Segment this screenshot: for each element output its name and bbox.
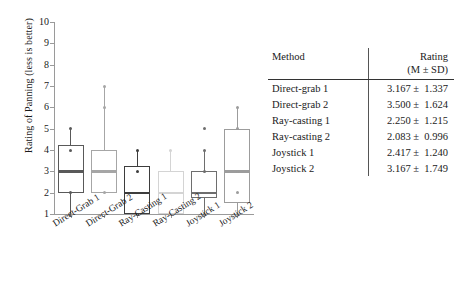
header-rating-sub: (M ± SD)	[369, 64, 455, 79]
header-method-blank	[268, 64, 369, 79]
y-axis-label: Rating of Panning (less is better)	[23, 0, 34, 176]
data-point	[69, 127, 72, 130]
outlier-point	[203, 127, 206, 130]
whisker-upper	[170, 150, 171, 171]
boxplot-joystick-1	[191, 22, 217, 215]
data-point	[69, 191, 72, 194]
table-row: Joystick 23.167 ± 1.749	[268, 160, 454, 176]
cell-rating: 3.167 ± 1.749	[369, 160, 455, 176]
data-point	[69, 149, 72, 152]
boxplot-direct-grab-2	[91, 22, 117, 215]
cell-method: Ray-casting 1	[268, 112, 369, 128]
data-point	[236, 170, 239, 173]
data-point	[103, 191, 106, 194]
y-tick-label-7: 7	[44, 81, 49, 91]
table-row: Ray-casting 12.250 ± 1.215	[268, 112, 454, 128]
box-iqr	[58, 145, 84, 193]
y-tick-label-3: 3	[44, 166, 49, 176]
whisker-upper	[237, 107, 238, 128]
whisker-upper	[204, 150, 205, 171]
data-point	[103, 106, 106, 109]
data-point	[136, 149, 139, 152]
cell-rating-value: 3.167 ± 1.749	[387, 163, 448, 174]
y-tick-label-5: 5	[44, 124, 49, 134]
y-tick-9	[50, 43, 54, 44]
boxplot-ray-casting-1	[124, 22, 150, 215]
data-point	[236, 191, 239, 194]
table-header-row: Method Rating	[268, 48, 454, 64]
data-point	[236, 127, 239, 130]
table-header-subrow: (M ± SD)	[268, 64, 454, 79]
whisker-upper	[70, 129, 71, 145]
y-tick-6	[50, 107, 54, 108]
y-tick-label-8: 8	[44, 60, 49, 70]
cell-rating: 2.250 ± 1.215	[369, 112, 455, 128]
y-tick-label-9: 9	[44, 38, 49, 48]
cell-rating-value: 2.083 ± 0.996	[387, 131, 448, 142]
cell-rating-value: 3.167 ± 1.337	[387, 83, 448, 94]
cell-rating: 2.417 ± 1.240	[369, 144, 455, 160]
y-tick-label-6: 6	[44, 102, 49, 112]
table-row: Ray-casting 22.083 ± 0.996	[268, 128, 454, 144]
cell-rating: 3.500 ± 1.624	[369, 96, 455, 112]
cell-rating: 2.083 ± 0.996	[369, 128, 455, 144]
y-tick-label-10: 10	[39, 17, 49, 27]
cell-method: Joystick 2	[268, 160, 369, 176]
y-axis-line	[54, 22, 55, 215]
data-point	[203, 170, 206, 173]
cell-method: Direct-grab 2	[268, 96, 369, 112]
y-tick-5	[50, 129, 54, 130]
cell-rating-value: 2.417 ± 1.240	[387, 147, 448, 158]
cell-method: Direct-grab 1	[268, 80, 369, 96]
y-tick-8	[50, 65, 54, 66]
boxplot-joystick-2	[224, 22, 250, 215]
whisker-upper	[104, 86, 105, 150]
y-tick-label-1: 1	[44, 209, 49, 219]
table-body: Direct-grab 13.167 ± 1.337Direct-grab 23…	[268, 80, 454, 176]
y-tick-10	[50, 22, 54, 23]
y-tick-label-4: 4	[44, 145, 49, 155]
boxplot-direct-grab-1	[58, 22, 84, 215]
cell-method: Joystick 1	[268, 144, 369, 160]
summary-table: Method Rating (M ± SD) Direct-grab 13.16…	[268, 48, 454, 176]
data-point	[103, 170, 106, 173]
cell-rating-value: 3.500 ± 1.624	[387, 99, 448, 110]
data-point	[69, 170, 72, 173]
figure-root: Rating of Panning (less is better) 12345…	[0, 0, 460, 282]
data-point	[136, 170, 139, 173]
y-tick-1	[50, 214, 54, 215]
whisker-upper	[137, 150, 138, 166]
header-rating: Rating	[369, 48, 455, 64]
table-row: Direct-grab 23.500 ± 1.624	[268, 96, 454, 112]
y-tick-7	[50, 86, 54, 87]
y-tick-label-2: 2	[44, 188, 49, 198]
data-point	[103, 85, 106, 88]
plot-area: 12345678910	[54, 22, 254, 215]
data-point	[169, 149, 172, 152]
boxplot-chart: Rating of Panning (less is better) 12345…	[0, 0, 262, 282]
data-point	[203, 149, 206, 152]
data-point	[236, 106, 239, 109]
boxplot-ray-casting-2	[158, 22, 184, 215]
y-tick-2	[50, 193, 54, 194]
cell-rating: 3.167 ± 1.337	[369, 80, 455, 96]
cell-method: Ray-casting 2	[268, 128, 369, 144]
y-tick-4	[50, 150, 54, 151]
cell-rating-value: 2.250 ± 1.215	[387, 115, 448, 126]
header-method: Method	[268, 48, 369, 64]
table-row: Joystick 12.417 ± 1.240	[268, 144, 454, 160]
table-row: Direct-grab 13.167 ± 1.337	[268, 80, 454, 96]
y-tick-3	[50, 171, 54, 172]
